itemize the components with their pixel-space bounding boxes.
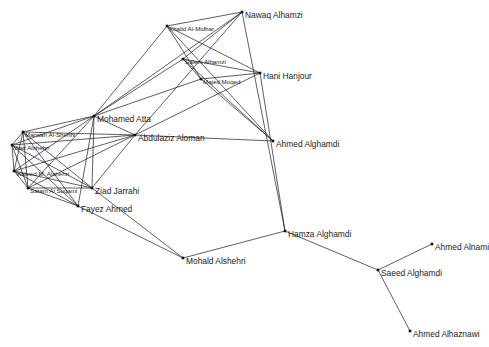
node-dot[interactable] — [377, 269, 380, 272]
node-label: Khalid Al-Midhar — [169, 25, 214, 32]
node-dot[interactable] — [77, 205, 80, 208]
edge-wail-satam — [12, 145, 28, 188]
node-dot[interactable] — [259, 72, 262, 75]
node-dot[interactable] — [11, 144, 14, 147]
edge-salem-atta — [94, 59, 183, 116]
node-hani[interactable]: Hani Hanjour — [259, 71, 312, 81]
edge-mohald-hamza — [183, 231, 285, 258]
edge-abdulaziz-ziad — [92, 135, 135, 188]
edge-hani-abdulaziz — [135, 73, 260, 135]
node-label: Saeed Alghamdi — [381, 268, 442, 278]
node-label: Wail Alshehri — [14, 144, 50, 151]
edge-nawaq-salem — [183, 12, 242, 59]
node-dot[interactable] — [409, 330, 412, 333]
node-label: Mohald Alshehri — [186, 256, 246, 266]
edge-hani-hamza — [260, 73, 285, 231]
node-label: Majed Moqed — [203, 78, 241, 85]
node-hamza[interactable]: Hamza Alghamdi — [284, 229, 352, 239]
node-salem[interactable]: Salem Alhamzi — [182, 58, 226, 65]
node-satam[interactable]: Satam Al Suqami — [27, 187, 78, 194]
node-saeed[interactable]: Saeed Alghamdi — [377, 268, 442, 278]
node-majed[interactable]: Majed Moqed — [200, 78, 241, 85]
node-dot[interactable] — [91, 187, 94, 190]
node-wail[interactable]: Wail Alshehri — [11, 144, 50, 151]
node-marwan[interactable]: Marwan Al-Shehhi — [22, 131, 76, 138]
node-label: Nawaq Alhamzi — [245, 10, 303, 20]
edge-saeed-alhaznawi — [378, 270, 410, 331]
node-layer: Nawaq AlhamziKhalid Al-MidharSalem Alham… — [11, 10, 489, 339]
edge-atta-fayez — [78, 116, 94, 206]
node-dot[interactable] — [200, 78, 203, 81]
node-label: Marwan Al-Shehhi — [25, 131, 75, 138]
node-label: Hani Hanjour — [263, 71, 312, 81]
node-fayez[interactable]: Fayez Ahmed — [77, 204, 133, 214]
network-graph: Nawaq AlhamziKhalid Al-MidharSalem Alham… — [0, 0, 489, 347]
edge-khalid-atta — [94, 26, 167, 116]
node-ahmed_alghamdi[interactable]: Ahmed Alghamdi — [272, 139, 340, 149]
node-label: Hamza Alghamdi — [288, 229, 351, 239]
node-mohald[interactable]: Mohald Alshehri — [182, 256, 246, 266]
edge-abdulaziz-waleed — [14, 135, 135, 171]
node-dot[interactable] — [22, 131, 25, 134]
node-alhaznawi[interactable]: Ahmed Alhaznawi — [409, 329, 480, 339]
node-dot[interactable] — [284, 230, 287, 233]
node-waleed[interactable]: Waleed M. Alshehri — [13, 170, 69, 177]
node-label: Salem Alhamzi — [185, 58, 226, 65]
node-dot[interactable] — [241, 11, 244, 14]
node-label: Ziad Jarrahi — [95, 186, 139, 196]
node-dot[interactable] — [134, 134, 137, 137]
node-khalid[interactable]: Khalid Al-Midhar — [166, 25, 214, 32]
node-label: Satam Al Suqami — [30, 187, 77, 194]
node-label: Ahmed Alnami — [435, 242, 489, 252]
node-label: Mohamed Atta — [97, 114, 151, 124]
node-dot[interactable] — [182, 257, 185, 260]
node-label: Ahmed Alhaznawi — [413, 329, 480, 339]
edge-ziad-mohald — [92, 188, 183, 258]
node-dot[interactable] — [27, 187, 30, 190]
node-dot[interactable] — [431, 243, 434, 246]
edge-marwan-ziad — [23, 132, 92, 188]
node-atta[interactable]: Mohamed Atta — [93, 114, 152, 124]
node-ziad[interactable]: Ziad Jarrahi — [91, 186, 140, 196]
edge-nawaq-hamza — [242, 12, 285, 231]
node-label: Fayez Ahmed — [81, 204, 133, 214]
node-nawaq[interactable]: Nawaq Alhamzi — [241, 10, 303, 20]
node-dot[interactable] — [182, 58, 185, 61]
node-dot[interactable] — [272, 140, 275, 143]
node-dot[interactable] — [13, 170, 16, 173]
node-label: Ahmed Alghamdi — [276, 139, 339, 149]
node-dot[interactable] — [166, 25, 169, 28]
node-label: Abdulaziz Aloman — [138, 133, 205, 143]
node-alnami[interactable]: Ahmed Alnami — [431, 242, 489, 252]
node-label: Waleed M. Alshehri — [16, 170, 69, 177]
node-abdulaziz[interactable]: Abdulaziz Aloman — [134, 133, 205, 143]
node-dot[interactable] — [93, 115, 96, 118]
edge-saeed-alnami — [378, 244, 432, 270]
